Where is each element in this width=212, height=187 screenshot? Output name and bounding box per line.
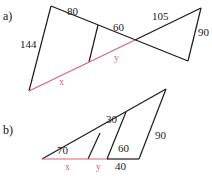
length-90: 90 bbox=[155, 129, 167, 141]
inner-segment-1 bbox=[88, 133, 100, 159]
figure-a: a) 80 60 105 144 90 x y bbox=[3, 5, 210, 91]
length-144: 144 bbox=[20, 38, 37, 50]
side-90 bbox=[139, 89, 166, 159]
figure-a-label: a) bbox=[3, 9, 12, 23]
inner-parallel-segment bbox=[89, 25, 98, 62]
unknown-line-xy bbox=[29, 40, 135, 91]
figure-b: b) 70 30 60 90 40 x y bbox=[3, 89, 167, 172]
unknown-y: y bbox=[114, 52, 119, 63]
length-60: 60 bbox=[113, 21, 125, 33]
unknown-y: y bbox=[96, 161, 101, 172]
length-105: 105 bbox=[152, 10, 169, 22]
similar-triangles-diagram: a) 80 60 105 144 90 x y b) 70 30 60 90 4… bbox=[0, 0, 212, 187]
figure-b-label: b) bbox=[3, 123, 13, 137]
length-30: 30 bbox=[106, 113, 118, 125]
unknown-x: x bbox=[59, 76, 64, 87]
unknown-x: x bbox=[65, 161, 70, 172]
length-40: 40 bbox=[115, 160, 127, 172]
length-80: 80 bbox=[67, 5, 79, 17]
length-70: 70 bbox=[57, 144, 69, 156]
length-60: 60 bbox=[118, 142, 130, 154]
length-90: 90 bbox=[198, 26, 210, 38]
